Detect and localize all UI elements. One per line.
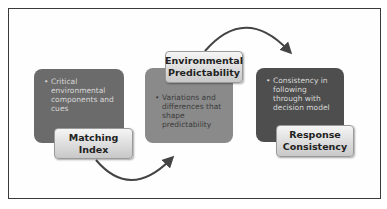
bullet-icon: • bbox=[266, 76, 273, 112]
environmental-predictability-bullet: • Variations and differences that shape … bbox=[155, 93, 225, 129]
matching-index-label: Matching Index bbox=[54, 128, 133, 159]
response-consistency-bullet: • Consistency in following through with … bbox=[266, 76, 336, 112]
bullet-text: Variations and differences that shape pr… bbox=[162, 93, 225, 129]
bullet-icon: • bbox=[44, 77, 51, 113]
bullet-icon: • bbox=[155, 93, 162, 129]
response-consistency-label: Response Consistency bbox=[276, 125, 354, 157]
bullet-text: Consistency in following through with de… bbox=[273, 76, 336, 112]
environmental-predictability-label: Environmental Predictability bbox=[165, 51, 243, 83]
bullet-text: Critical environmental components and cu… bbox=[51, 77, 116, 113]
matching-index-bullet: • Critical environmental components and … bbox=[44, 77, 116, 113]
